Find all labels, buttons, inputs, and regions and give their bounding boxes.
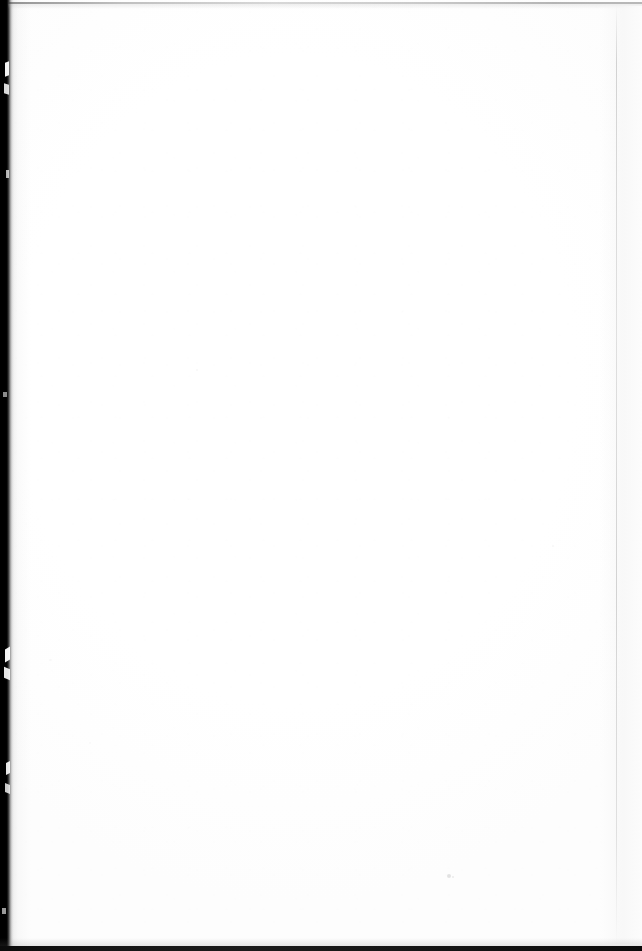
dust-speck <box>452 876 454 878</box>
dust-speck <box>49 659 52 661</box>
scanned-page <box>0 0 642 951</box>
bottom-scan-edge-haze <box>0 938 642 946</box>
page-paper-surface <box>0 0 642 951</box>
gutter-edge-nick <box>6 170 9 178</box>
gutter-edge-nick <box>2 908 6 914</box>
dust-speck <box>196 369 198 371</box>
dust-speck <box>447 874 451 878</box>
dust-speck <box>89 742 91 744</box>
right-page-edge-line <box>616 6 617 944</box>
gutter-edge-nick <box>6 761 10 775</box>
top-scan-edge-haze <box>8 4 642 9</box>
gutter-edge-nick <box>5 61 9 77</box>
dust-speck <box>552 545 554 547</box>
bottom-scan-edge-line <box>0 946 642 951</box>
gutter-edge-nick <box>3 392 7 397</box>
left-binding-shadow <box>0 0 14 951</box>
gutter-edge-nick <box>4 667 10 681</box>
gutter-edge-nick <box>4 83 9 95</box>
gutter-edge-nick <box>5 783 10 794</box>
